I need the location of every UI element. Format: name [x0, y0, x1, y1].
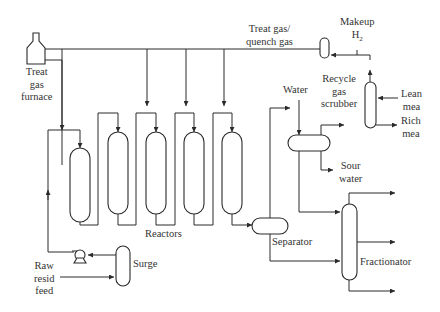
label-rich-mea: Rich mea: [401, 115, 421, 140]
separator: [252, 218, 288, 234]
surge-drum: [116, 246, 130, 286]
label-separator: Separator: [272, 236, 312, 249]
label-line: Recycle: [321, 73, 357, 86]
recycle-knockout-drum: [320, 38, 329, 58]
furnace-icon: [27, 33, 45, 64]
label-line: mea: [401, 101, 422, 114]
label-line: Treat: [21, 66, 52, 79]
label-furnace: Treat gas furnace: [21, 66, 52, 104]
label-treat-gas: Treat gas/ quench gas: [246, 23, 293, 48]
label-recycle-scrubber: Recycle gas scrubber: [321, 73, 357, 111]
label-surge: Surge: [133, 258, 157, 271]
label-line: Raw: [34, 260, 54, 273]
reactor-5: [222, 132, 242, 214]
pump-icon: [72, 250, 86, 263]
process-flow-diagram: Treat gas furnace Treat gas/ quench gas …: [0, 0, 440, 312]
label-line: Makeup: [340, 16, 374, 29]
water-wash-drum: [288, 135, 330, 151]
reactor-3: [146, 132, 166, 214]
reactor-1: [70, 148, 90, 222]
label-makeup-h2: Makeup H2: [340, 16, 374, 45]
label-reactors: Reactors: [145, 228, 182, 241]
reactor-2: [108, 132, 128, 214]
label-sour-water: Sour water: [339, 160, 362, 185]
recycle-gas-scrubber: [365, 82, 376, 128]
label-line: Lean: [401, 88, 422, 101]
label-lean-mea: Lean mea: [401, 88, 422, 113]
label-line: resid: [34, 273, 54, 286]
label-line: quench gas: [246, 36, 293, 49]
reactor-4: [184, 132, 204, 214]
label-line: Rich: [401, 115, 421, 128]
label-water: Water: [283, 84, 308, 97]
label-line: Treat gas/: [246, 23, 293, 36]
h2-subscript: 2: [359, 35, 363, 43]
label-line: H2: [340, 29, 374, 46]
label-line: gas: [321, 86, 357, 99]
fractionator: [342, 204, 357, 280]
label-line: scrubber: [321, 98, 357, 111]
label-line: mea: [401, 128, 421, 141]
label-raw-feed: Raw resid feed: [34, 260, 54, 298]
label-line: water: [339, 173, 362, 186]
label-line: gas: [21, 79, 52, 92]
label-line: furnace: [21, 91, 52, 104]
label-line: feed: [34, 285, 54, 298]
label-fractionator: Fractionator: [360, 256, 411, 269]
label-line: Sour: [339, 160, 362, 173]
